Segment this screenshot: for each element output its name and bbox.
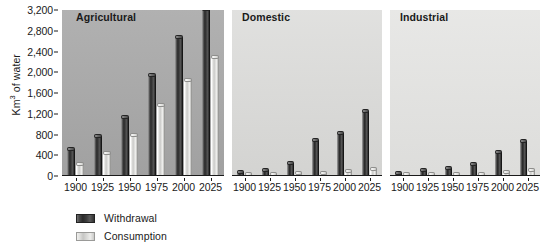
bar-top-cap [312, 138, 319, 142]
bar-withdrawal-2000 [175, 37, 183, 176]
bar-withdrawal-2025 [202, 10, 210, 176]
x-axis-tick-group: 190019251950197520002025 [390, 178, 540, 192]
bar-top-cap [237, 170, 244, 174]
x-axis-tick-label: 2025 [358, 182, 381, 193]
y-axis-tick-label: 2,000 [27, 67, 53, 78]
bar-top-cap [103, 151, 111, 155]
bar-withdrawal-1975 [312, 140, 319, 176]
bar-withdrawal-1950 [121, 117, 129, 176]
bar-top-cap [362, 109, 369, 113]
bar-top-cap [76, 162, 84, 166]
x-axis-tick-label: 1950 [283, 182, 306, 193]
bar-body [362, 111, 369, 176]
x-axis-tick-label: 1975 [466, 182, 489, 193]
bar-consumption-2025 [211, 57, 219, 176]
y-axis-tick-mark [54, 113, 58, 114]
y-axis-tick-group: 04008001,2001,6002,0002,4002,8003,200 [12, 10, 58, 176]
bar-top-cap [370, 167, 377, 171]
bar-body [184, 80, 192, 176]
bar-withdrawal-2000 [337, 133, 344, 176]
legend-swatch-withdrawal [76, 214, 95, 223]
bar-top-cap [121, 115, 129, 119]
panel-industrial: Industrial190019251950197520002025 [390, 10, 540, 176]
panel-plot-area [62, 10, 224, 176]
legend-label-withdrawal: Withdrawal [104, 212, 157, 224]
panel-plot-area [390, 10, 540, 176]
x-axis-tick-label: 1925 [416, 182, 439, 193]
chart-legend: WithdrawalConsumption [76, 209, 167, 245]
x-axis-tick-group: 190019251950197520002025 [232, 178, 382, 192]
y-axis-tick-mark [54, 51, 58, 52]
bar-body [175, 37, 183, 176]
bar-top-cap [148, 73, 156, 77]
bar-top-cap [470, 162, 477, 166]
bar-body [520, 141, 527, 176]
x-axis-line [62, 175, 224, 176]
bar-body [157, 105, 165, 176]
bar-body [312, 140, 319, 176]
y-axis-tick-label: 2,400 [27, 46, 53, 57]
x-axis-tick-label: 1900 [233, 182, 256, 193]
x-axis-tick-label: 2000 [491, 182, 514, 193]
y-axis-tick-label: 400 [36, 150, 53, 161]
bar-body [211, 57, 219, 176]
x-axis-tick-label: 1975 [145, 182, 168, 193]
bar-consumption-2000 [184, 80, 192, 176]
y-axis-tick-mark [54, 72, 58, 73]
legend-label-consumption: Consumption [104, 230, 167, 242]
x-axis-tick-label: 1900 [64, 182, 87, 193]
x-axis-tick-label: 1925 [91, 182, 114, 193]
bar-top-cap [157, 103, 165, 107]
bar-top-cap [345, 169, 352, 173]
panel-domestic: Domestic190019251950197520002025 [232, 10, 382, 176]
bar-top-cap [520, 139, 527, 143]
bar-consumption-1950 [130, 135, 138, 177]
bar-body [148, 75, 156, 176]
bar-top-cap [94, 134, 102, 138]
bar-body [130, 135, 138, 177]
water-use-chart-figure: Km3 of water 04008001,2001,6002,0002,400… [0, 0, 548, 252]
bar-top-cap [503, 170, 510, 174]
x-axis-tick-label: 2000 [172, 182, 195, 193]
y-axis-tick-mark [54, 30, 58, 31]
panel-title: Industrial [400, 11, 448, 23]
legend-swatch-consumption [76, 232, 95, 241]
y-axis-tick-label: 1,600 [27, 88, 53, 99]
x-axis-tick-label: 1950 [118, 182, 141, 193]
bar-body [103, 153, 111, 176]
bar-top-cap [445, 166, 452, 170]
bar-body [67, 149, 75, 176]
y-axis-tick-mark [54, 176, 58, 177]
bar-body [495, 152, 502, 176]
panel-agricultural: Agricultural190019251950197520002025 [62, 10, 224, 176]
panel-title: Domestic [242, 11, 290, 23]
legend-item-consumption: Consumption [76, 227, 167, 245]
bar-top-cap [175, 35, 183, 39]
bar-body [337, 133, 344, 176]
bar-body [94, 136, 102, 176]
bar-top-cap [184, 78, 192, 82]
x-axis-tick-group: 190019251950197520002025 [62, 178, 224, 192]
bar-top-cap [528, 168, 535, 172]
bar-withdrawal-2000 [495, 152, 502, 176]
x-axis-line [390, 175, 540, 176]
y-axis-tick-label: 0 [47, 171, 53, 182]
bar-withdrawal-1900 [67, 149, 75, 176]
bar-top-cap [67, 147, 75, 151]
bar-body [202, 10, 210, 176]
bar-top-cap [420, 168, 427, 172]
bar-withdrawal-2025 [362, 111, 369, 176]
bar-top-cap [287, 161, 294, 165]
x-axis-tick-label: 1900 [391, 182, 414, 193]
x-axis-tick-label: 2025 [516, 182, 539, 193]
y-axis-tick-label: 2,800 [27, 26, 53, 37]
legend-item-withdrawal: Withdrawal [76, 209, 167, 227]
x-axis-tick-label: 1950 [441, 182, 464, 193]
y-axis-tick-label: 1,200 [27, 109, 53, 120]
y-axis-tick-mark [54, 155, 58, 156]
x-axis-tick-label: 2000 [333, 182, 356, 193]
bar-consumption-1975 [157, 105, 165, 176]
bar-top-cap [130, 133, 138, 137]
y-axis-tick-mark [54, 93, 58, 94]
bar-body [121, 117, 129, 176]
